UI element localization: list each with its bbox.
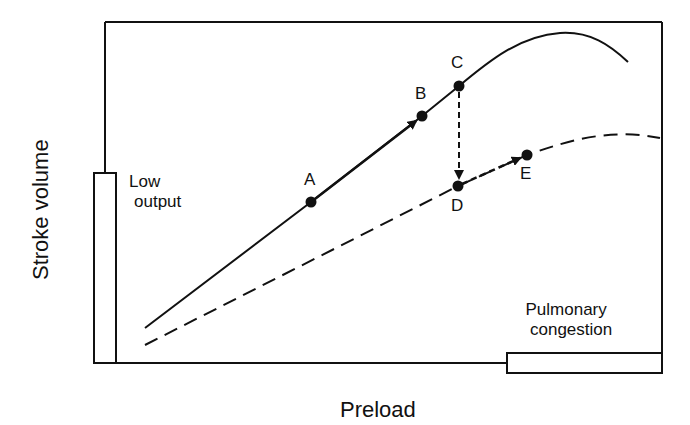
point-b-label: B: [415, 84, 426, 104]
point-a-label: A: [304, 170, 315, 190]
x-axis-label: Preload: [340, 397, 416, 423]
normal-curve: [145, 33, 628, 328]
point-a: [306, 197, 317, 208]
pulmonary-congestion-label: Pulmonary congestion: [520, 300, 612, 340]
arrow-a-to-b: [311, 121, 416, 202]
y-axis-label: Stroke volume: [28, 139, 54, 280]
point-c-label: C: [451, 53, 463, 73]
point-c: [454, 81, 465, 92]
low-output-region-bar: [94, 173, 116, 363]
point-d: [453, 181, 464, 192]
pulmonary-congestion-label-line1: Pulmonary: [520, 300, 612, 320]
point-e: [522, 150, 533, 161]
point-e-label: E: [520, 164, 531, 184]
low-output-label-line2: output: [129, 192, 181, 212]
point-d-label: D: [451, 196, 463, 216]
pulmonary-congestion-region-bar: [507, 353, 662, 373]
point-b: [417, 111, 428, 122]
low-output-label: Low output: [129, 172, 181, 212]
low-output-label-line1: Low: [129, 172, 181, 192]
pulmonary-congestion-label-line2: congestion: [520, 320, 612, 340]
frank-starling-diagram: [0, 0, 690, 425]
